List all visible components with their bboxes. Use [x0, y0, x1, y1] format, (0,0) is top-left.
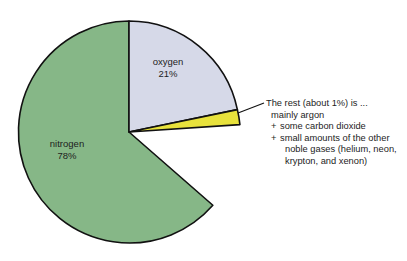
annotation-line-2: mainly argon [266, 110, 407, 122]
callout-annotation: The rest (about 1%) is ... mainly argon … [266, 98, 407, 168]
callout-leader-line [238, 103, 264, 113]
annotation-line-1: The rest (about 1%) is ... [266, 98, 407, 110]
annotation-bullet-2-cont-1: noble gases (helium, neon, [266, 144, 407, 156]
pie-chart-figure: oxygen 21% nitrogen 78% The rest (about … [0, 0, 407, 261]
annotation-bullet-2-text: small amounts of the other [280, 133, 390, 143]
plus-icon: + [271, 121, 280, 133]
annotation-bullet-1: +some carbon dioxide [266, 121, 407, 133]
annotation-bullet-2: +small amounts of the other [266, 133, 407, 145]
pie-label-nitrogen-name: nitrogen [27, 138, 107, 150]
annotation-bullet-2-cont-2: krypton, and xenon) [266, 156, 407, 168]
pie-label-oxygen-percent: 21% [131, 68, 205, 80]
pie-label-oxygen: oxygen 21% [131, 56, 205, 79]
top-margin-strip [0, 0, 407, 4]
pie-label-nitrogen-percent: 78% [27, 150, 107, 162]
pie-label-nitrogen: nitrogen 78% [27, 138, 107, 161]
pie-label-oxygen-name: oxygen [131, 56, 205, 68]
plus-icon: + [271, 133, 280, 145]
annotation-bullet-1-text: some carbon dioxide [280, 121, 366, 131]
